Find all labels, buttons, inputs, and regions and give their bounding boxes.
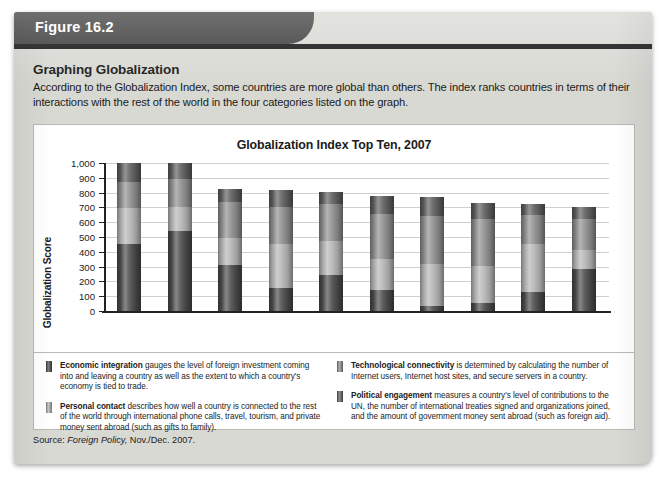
legend-swatch-icon	[46, 402, 52, 413]
legend-divider	[328, 360, 329, 422]
bar-segment	[420, 306, 444, 311]
legend-swatch-icon	[337, 391, 343, 402]
bar-segment	[471, 203, 495, 219]
bar-segment	[572, 207, 596, 218]
bar-segment	[521, 215, 545, 245]
legend-term: Personal contact	[60, 402, 125, 411]
bar-segment	[319, 192, 343, 205]
bar-column[interactable]	[319, 192, 343, 311]
bar-column[interactable]	[218, 189, 242, 311]
bar-segment	[471, 303, 495, 311]
bar-segment	[572, 250, 596, 269]
figure-intro: Graphing Globalization According to the …	[33, 62, 633, 109]
plot-frame: 01002003004005006007008009001,000Singapo…	[104, 163, 609, 311]
bar-segment	[572, 269, 596, 311]
bar-segment	[370, 196, 394, 215]
bar-segment	[319, 241, 343, 275]
legend-item: Personal contact describes how well a co…	[44, 402, 322, 434]
bar-segment	[168, 163, 192, 179]
figure-number-label: Figure 16.2	[35, 19, 114, 35]
y-axis-label: 0	[90, 306, 95, 317]
source-rest: Nov./Dec. 2007.	[127, 435, 195, 445]
y-axis-label: 500	[79, 232, 95, 243]
figure-heading: Graphing Globalization	[33, 62, 633, 77]
legend-term: Political engagement	[351, 391, 432, 400]
y-axis-label: 200	[79, 276, 95, 287]
y-axis-label: 700	[79, 202, 95, 213]
bar-column[interactable]	[521, 204, 545, 311]
bar-segment	[420, 264, 444, 305]
bar-segment	[471, 219, 495, 266]
x-axis-line	[102, 311, 611, 313]
source-journal: Foreign Policy,	[67, 435, 127, 445]
bar-segment	[319, 204, 343, 240]
bar-segment	[218, 265, 242, 311]
bar-segment	[218, 202, 242, 238]
bar-segment	[117, 182, 141, 208]
bar-column[interactable]	[168, 163, 192, 311]
figure-card: Figure 16.2 Graphing Globalization Accor…	[14, 12, 652, 464]
bar-column[interactable]	[572, 207, 596, 311]
bar-segment	[269, 244, 293, 288]
bar-segment	[168, 207, 192, 231]
legend-swatch-icon	[46, 361, 52, 372]
bar-column[interactable]	[269, 190, 293, 311]
chart-title: Globalization Index Top Ten, 2007	[34, 138, 634, 152]
bar-segment	[117, 244, 141, 311]
bar-segment	[370, 290, 394, 311]
bar-segment	[572, 219, 596, 250]
bar-segment	[269, 190, 293, 207]
y-axis-label: 300	[79, 261, 95, 272]
y-axis-label: 400	[79, 246, 95, 257]
bar-segment	[370, 214, 394, 259]
bar-segment	[420, 197, 444, 216]
bar-segment	[521, 204, 545, 214]
y-axis-line	[104, 163, 106, 311]
legend-column-right: Technological connectivity is determined…	[335, 361, 613, 423]
bar-column[interactable]	[117, 163, 141, 311]
legend-column-left: Economic integration gauges the level of…	[44, 361, 322, 434]
header-rule	[14, 44, 652, 49]
bar-segment	[117, 163, 141, 182]
source-prefix: Source:	[33, 435, 67, 445]
y-axis-label: 800	[79, 187, 95, 198]
y-axis-label: 600	[79, 217, 95, 228]
bar-segment	[269, 288, 293, 311]
bar-segment	[319, 275, 343, 311]
y-axis-title: Globalization Score	[42, 237, 56, 328]
legend-box: Economic integration gauges the level of…	[33, 352, 635, 430]
legend-item: Political engagement measures a country'…	[335, 391, 613, 423]
y-axis-label: 100	[79, 291, 95, 302]
figure-header: Figure 16.2	[14, 12, 652, 52]
bar-column[interactable]	[370, 196, 394, 311]
legend-item: Technological connectivity is determined…	[335, 361, 613, 382]
figure-number-tab: Figure 16.2	[14, 12, 314, 44]
bar-segment	[117, 208, 141, 244]
bar-segment	[218, 238, 242, 265]
source-line: Source: Foreign Policy, Nov./Dec. 2007.	[33, 435, 195, 445]
legend-item: Economic integration gauges the level of…	[44, 361, 322, 393]
figure-description: According to the Globalization Index, so…	[33, 80, 633, 109]
y-axis-label: 1,000	[71, 158, 95, 169]
bar-segment	[471, 266, 495, 303]
legend-term: Economic integration	[60, 361, 143, 370]
bar-segment	[218, 189, 242, 202]
bar-segment	[269, 207, 293, 244]
bar-segment	[168, 179, 192, 207]
bar-column[interactable]	[420, 197, 444, 311]
bar-segment	[521, 244, 545, 291]
y-axis-label: 900	[79, 172, 95, 183]
bar-column[interactable]	[471, 203, 495, 311]
bar-segment	[370, 259, 394, 290]
bar-segment	[168, 231, 192, 311]
bar-segment	[521, 292, 545, 311]
legend-term: Technological connectivity	[351, 361, 454, 370]
legend-swatch-icon	[337, 361, 343, 372]
plot-area: 01002003004005006007008009001,000Singapo…	[104, 163, 609, 311]
figure-page: Figure 16.2 Graphing Globalization Accor…	[0, 0, 666, 481]
bar-segment	[420, 216, 444, 265]
